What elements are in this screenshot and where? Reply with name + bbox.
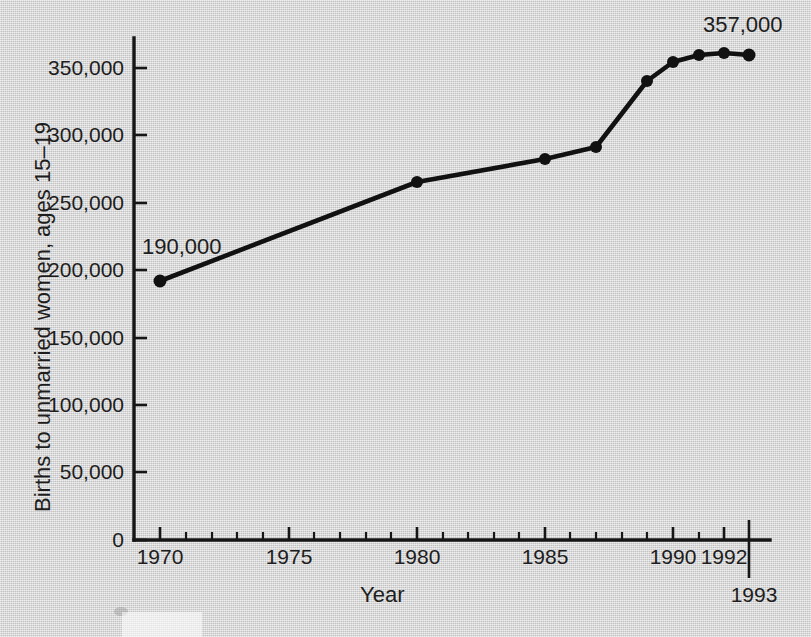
y-tick-label-100000: 100,000 <box>18 393 124 417</box>
x-tick-label-1975: 1975 <box>249 545 329 569</box>
data-series-markers <box>154 47 756 288</box>
y-tick-label-0: 0 <box>18 528 124 552</box>
data-series-line <box>160 53 749 281</box>
x-tick-label-1985: 1985 <box>505 545 585 569</box>
data-label-190000: 190,000 <box>142 234 222 260</box>
data-label-357000: 357,000 <box>703 12 783 38</box>
x-tick-label-1993: 1993 <box>714 583 794 607</box>
x-tick-label-1970: 1970 <box>120 545 200 569</box>
data-point-1991 <box>693 49 705 61</box>
chart-figure: Births to unmarried women, ages 15–19 0 … <box>0 0 811 637</box>
data-point-1990 <box>667 56 679 68</box>
data-point-1992 <box>718 47 730 59</box>
y-tick-label-50000: 50,000 <box>18 460 124 484</box>
y-tick-label-250000: 250,000 <box>18 191 124 215</box>
data-point-1985 <box>539 153 551 165</box>
x-axis-minor-ticks <box>186 532 699 540</box>
x-tick-label-1992: 1992 <box>684 545 764 569</box>
y-tick-label-350000: 350,000 <box>18 56 124 80</box>
x-tick-label-1980: 1980 <box>377 545 457 569</box>
x-axis-title: Year <box>360 582 404 608</box>
y-tick-label-150000: 150,000 <box>18 326 124 350</box>
y-tick-label-300000: 300,000 <box>18 123 124 147</box>
y-axis-title: Births to unmarried women, ages 15–19 <box>30 122 56 512</box>
data-point-1980 <box>411 176 423 188</box>
data-point-1993 <box>743 49 756 62</box>
data-point-1989 <box>641 75 653 87</box>
y-axis-ticks <box>134 68 147 540</box>
y-tick-label-200000: 200,000 <box>18 258 124 282</box>
data-point-1987 <box>590 141 602 153</box>
data-point-1970 <box>154 275 167 288</box>
